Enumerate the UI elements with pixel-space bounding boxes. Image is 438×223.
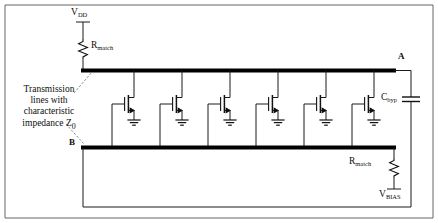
resistor-rmatch-bottom-symbol xyxy=(390,158,399,179)
circuit-diagram-canvas: VDD Rmatch A B Cbyp Rmatch VBIAS Transmi… xyxy=(0,0,438,223)
annotation-line-4: impedance Z0 xyxy=(1,118,97,131)
transistor-4 xyxy=(256,95,285,147)
label-rmatch-top: Rmatch xyxy=(91,41,113,51)
transistor-2 xyxy=(160,95,189,147)
label-node-b: B xyxy=(69,138,75,147)
label-node-a: A xyxy=(398,52,405,61)
annotation-line-1: Transmission xyxy=(1,84,97,95)
transistor-3 xyxy=(208,95,237,147)
transistor-5 xyxy=(304,95,333,147)
transistor-1 xyxy=(112,95,141,147)
annotation-line-2: lines with xyxy=(1,95,97,106)
resistor-rmatch-top-symbol xyxy=(79,39,88,60)
annotation-line-3: characteristic xyxy=(1,106,97,117)
wire-cbyp-return-path xyxy=(83,102,411,208)
label-vdd: VDD xyxy=(71,8,87,18)
label-cbyp: Cbyp xyxy=(381,93,397,103)
transistor-6 xyxy=(352,95,381,147)
label-vbias: VBIAS xyxy=(379,190,401,200)
annotation-transmission-lines: Transmission lines with characteristic i… xyxy=(1,84,97,131)
label-rmatch-bottom: Rmatch xyxy=(349,157,371,167)
